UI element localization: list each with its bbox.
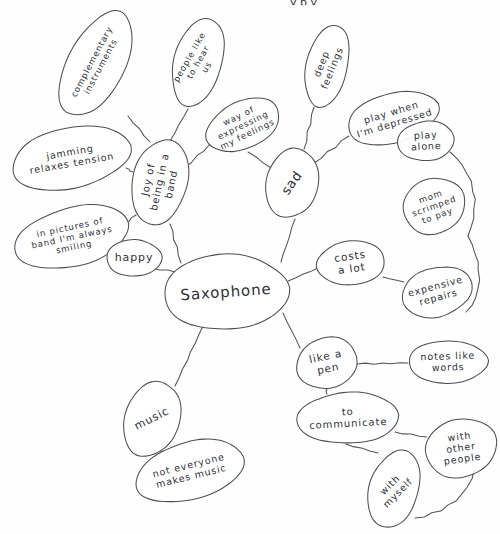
node-music[interactable]: music: [124, 381, 181, 456]
node-like-a-pen[interactable]: like apen: [297, 337, 357, 389]
edge-to-communicate-to-with-other-people: [395, 432, 427, 437]
edge-saxophone-to-joy-of-being-in-a-band: [170, 224, 181, 263]
node-expensive-repairs[interactable]: expensiverepairs: [402, 267, 472, 318]
node-way-of-expressing-my-feelings[interactable]: way ofexpressingmy feelings: [206, 98, 279, 152]
node-people-like-to-hear-us[interactable]: people liketo hearus: [171, 18, 225, 106]
node-happy[interactable]: happy: [107, 240, 162, 276]
node-label-costs-a-lot: costsa lot: [333, 248, 368, 277]
edge-costs-a-lot-to-expensive-repairs: [383, 277, 404, 282]
edge-joy-of-being-in-a-band-to-way-of-expressing-my-feelings: [186, 145, 209, 167]
node-with-other-people[interactable]: withotherpeople: [425, 419, 496, 478]
node-label-line: alone: [411, 139, 442, 152]
node-jamming-relaxes-tension[interactable]: jammingrelaxes tension: [13, 126, 131, 190]
node-label-line: words: [432, 361, 465, 373]
node-to-communicate[interactable]: tocommunicate: [297, 392, 399, 443]
node-label-happy: happy: [115, 251, 154, 264]
nodes-layer: SaxophoneJoy ofbeing in abandcomplementa…: [13, 11, 497, 528]
edge-to-communicate-to-with-myself: [346, 444, 378, 453]
edge-saxophone-to-music: [175, 326, 203, 386]
mindmap-canvas: y p y SaxophoneJoy ofbeing in abandcompl…: [0, 0, 500, 534]
edge-sad-to-deep-feelings: [304, 107, 314, 149]
edge-joy-of-being-in-a-band-to-people-like-to-hear-us: [170, 109, 188, 141]
edge-saxophone-to-like-a-pen: [283, 313, 300, 348]
edge-mom-scrimped-to-pay-to-expensive-repairs: [466, 236, 480, 312]
node-label-line: play: [414, 128, 438, 140]
edge-joy-of-being-in-a-band-to-complementary-instruments: [128, 116, 150, 142]
edge-sad-to-way-of-expressing-my-feelings: [248, 152, 271, 168]
node-costs-a-lot[interactable]: costsa lot: [316, 241, 384, 285]
node-deep-feelings[interactable]: deepfeelings: [305, 26, 349, 108]
edge-joy-of-being-in-a-band-to-jamming-relaxes-tension: [126, 168, 133, 172]
node-with-myself[interactable]: withmyself: [368, 450, 420, 527]
node-notes-like-words[interactable]: notes likewords: [410, 341, 489, 383]
edge-like-a-pen-to-notes-like-words: [357, 363, 408, 364]
edge-sad-to-play-when-im-depressed: [314, 136, 349, 163]
node-saxophone[interactable]: Saxophone: [165, 254, 290, 329]
node-label-line: happy: [115, 251, 154, 264]
node-label-play-alone: playalone: [410, 128, 442, 152]
edge-saxophone-to-sad: [281, 219, 295, 262]
node-mom-scrimped-to-pay[interactable]: momscrimpedto pay: [403, 178, 465, 234]
edge-saxophone-to-costs-a-lot: [288, 268, 318, 281]
node-joy-of-being-in-a-band[interactable]: Joy ofbeing in aband: [132, 140, 189, 225]
node-sad[interactable]: sad: [266, 148, 319, 217]
node-label-line: notes like: [420, 349, 475, 362]
node-label-line: to: [341, 406, 353, 418]
mindmap-graph: SaxophoneJoy ofbeing in abandcomplementa…: [0, 0, 500, 534]
node-complementary-instruments[interactable]: complementaryinstruments: [59, 11, 132, 115]
